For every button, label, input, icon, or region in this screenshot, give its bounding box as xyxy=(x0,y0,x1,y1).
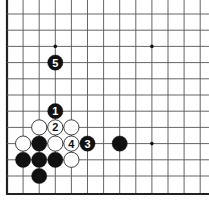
move-number: 2 xyxy=(52,121,58,133)
white-stone xyxy=(16,136,31,151)
white-stone-2: 2 xyxy=(48,120,63,135)
go-board: 12345 xyxy=(0,0,209,201)
black-stone-3: 3 xyxy=(80,136,95,151)
white-stone xyxy=(64,120,79,135)
star-point-icon xyxy=(150,45,154,49)
white-stone xyxy=(64,152,79,167)
white-stone xyxy=(48,136,63,151)
star-point-icon xyxy=(150,142,154,146)
move-number: 4 xyxy=(68,138,75,150)
black-stone-1: 1 xyxy=(48,104,63,119)
star-point-icon xyxy=(54,45,58,49)
white-stone xyxy=(32,120,47,135)
black-stone xyxy=(32,168,47,183)
black-stone-5: 5 xyxy=(48,55,63,70)
black-stone xyxy=(16,152,31,167)
black-stone xyxy=(32,136,47,151)
move-number: 1 xyxy=(52,105,58,117)
white-stone-4: 4 xyxy=(64,136,79,151)
black-stone xyxy=(48,152,63,167)
black-stone xyxy=(112,136,127,151)
black-stone xyxy=(32,152,47,167)
move-number: 3 xyxy=(84,138,90,150)
move-number: 5 xyxy=(52,57,58,69)
